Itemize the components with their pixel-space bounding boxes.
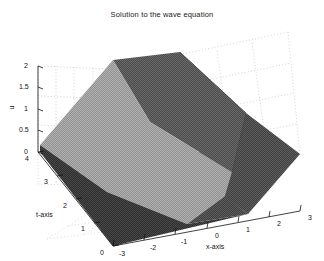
x-axis-label: x-axis	[206, 243, 224, 250]
t-tick-label-3: 3	[44, 178, 48, 185]
x-tick-label-3: 3	[308, 214, 312, 221]
wave-surface	[40, 52, 300, 246]
u-tick-label-0_5: 0.5	[19, 126, 29, 133]
figure-canvas: Solution to the wave equation	[0, 0, 324, 261]
u-tick-label-1_5: 1.5	[19, 83, 29, 90]
x-tick-label-2: 2	[277, 220, 281, 227]
x-tick-label-0: 0	[215, 232, 219, 239]
t-tick-label-2: 2	[63, 202, 67, 209]
u-tick-label-2: 2	[24, 62, 28, 69]
u-tick-label-0: 0	[24, 148, 28, 155]
surface-plot-axes	[0, 0, 324, 261]
x-tick-label-minus2: -2	[150, 244, 156, 251]
t-axis-label: t-axis	[36, 211, 53, 218]
t-tick-label-1: 1	[81, 225, 85, 232]
t-tick-label-4: 4	[25, 155, 29, 162]
x-tick-label-1: 1	[246, 226, 250, 233]
x-tick-label-minus3: -3	[119, 250, 125, 257]
u-axis-label: u	[8, 106, 15, 110]
x-tick-label-minus1: -1	[181, 238, 187, 245]
u-axis-ticks	[38, 66, 43, 154]
t-tick-label-0: 0	[100, 249, 104, 256]
u-tick-label-1: 1	[24, 105, 28, 112]
